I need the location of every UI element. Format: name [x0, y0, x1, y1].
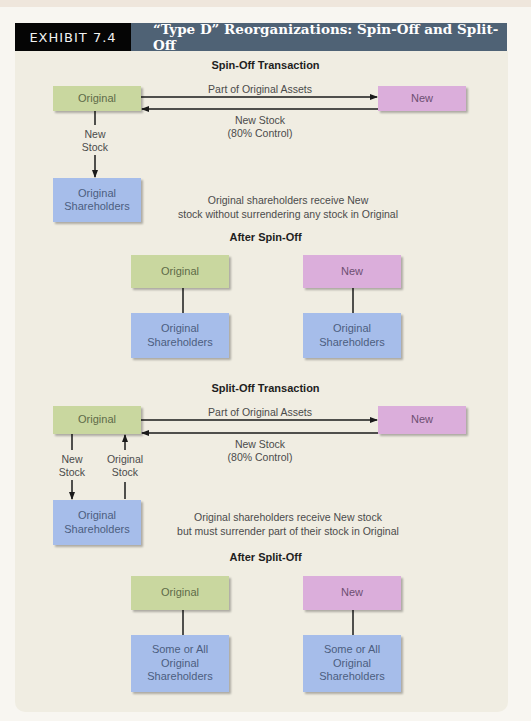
spin-shareholders-box: Original Shareholders: [53, 178, 141, 222]
after-spin-new-shareholders-box: Original Shareholders: [303, 313, 401, 358]
split-shareholders-box: Original Shareholders: [53, 500, 141, 545]
after-split-new-box: New: [303, 576, 401, 610]
after-split-original-box: Original: [131, 576, 229, 610]
after-split-new-shareholders-box: Some or All Original Shareholders: [303, 635, 401, 692]
after-split-original-shareholders-box: Some or All Original Shareholders: [131, 635, 229, 692]
spin-assets-label: Part of Original Assets: [160, 83, 360, 96]
spin-off-description: Original shareholders receive New stock …: [170, 193, 406, 221]
spin-new-stock-label: New Stock: [70, 128, 120, 154]
split-original-stock-label: Original Stock: [100, 453, 150, 479]
spin-off-title: Spin-Off Transaction: [0, 59, 531, 71]
split-off-description: Original shareholders receive New stock …: [160, 510, 416, 538]
split-assets-label: Part of Original Assets: [160, 406, 360, 419]
split-new-box: New: [378, 406, 466, 434]
split-stock-label: New Stock (80% Control): [200, 438, 320, 464]
split-original-box: Original: [53, 406, 141, 434]
after-spin-off-title: After Spin-Off: [0, 231, 531, 243]
after-spin-new-box: New: [303, 255, 401, 288]
split-off-title: Split-Off Transaction: [0, 382, 531, 394]
spin-new-box: New: [378, 86, 466, 111]
spin-stock-label: New Stock (80% Control): [200, 114, 320, 140]
split-new-stock-label: New Stock: [52, 453, 92, 479]
after-spin-original-box: Original: [131, 255, 229, 288]
after-split-off-title: After Split-Off: [0, 551, 531, 563]
after-spin-original-shareholders-box: Original Shareholders: [131, 313, 229, 358]
spin-original-box: Original: [53, 86, 141, 111]
